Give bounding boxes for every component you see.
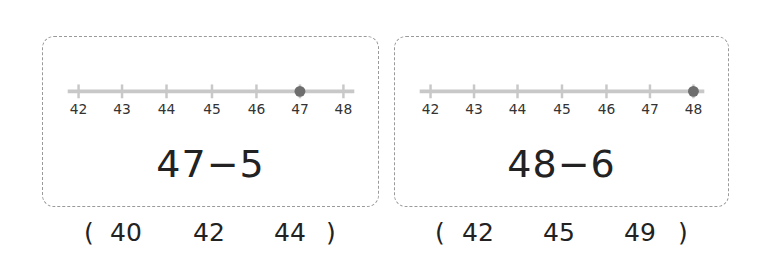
tick-label: 45 [553, 101, 571, 117]
tick-label: 47 [641, 101, 659, 117]
expression-2: 48−6 [395, 142, 728, 186]
problem-card-2: 42 43 44 45 46 47 48 48−6 [394, 36, 729, 207]
open-paren: ( [435, 218, 445, 247]
tick-label: 43 [465, 101, 483, 117]
tick-label: 42 [422, 101, 440, 117]
choice-option[interactable]: 42 [193, 218, 225, 247]
choice-option[interactable]: 44 [274, 218, 306, 247]
tick-label: 44 [509, 101, 527, 117]
choice-option[interactable]: 40 [110, 218, 142, 247]
tick-label: 47 [291, 101, 309, 117]
problem-card-1: 42 43 44 45 46 47 48 47−5 [42, 36, 379, 207]
tick-label: 43 [113, 101, 131, 117]
expression-1: 47−5 [43, 142, 378, 186]
tick-label: 44 [158, 101, 176, 117]
tick-label: 48 [335, 101, 353, 117]
tick-label: 42 [70, 101, 88, 117]
tick-label: 46 [248, 101, 266, 117]
tick-label: 45 [203, 101, 221, 117]
close-paren: ) [678, 218, 688, 247]
close-paren: ) [326, 218, 336, 247]
tick-label: 46 [598, 101, 616, 117]
choice-option[interactable]: 49 [624, 218, 656, 247]
choice-option[interactable]: 45 [543, 218, 575, 247]
open-paren: ( [84, 218, 94, 247]
tick-label: 48 [685, 101, 703, 117]
choice-option[interactable]: 42 [462, 218, 494, 247]
marked-point-dot [295, 86, 306, 97]
marked-point-dot [688, 86, 699, 97]
